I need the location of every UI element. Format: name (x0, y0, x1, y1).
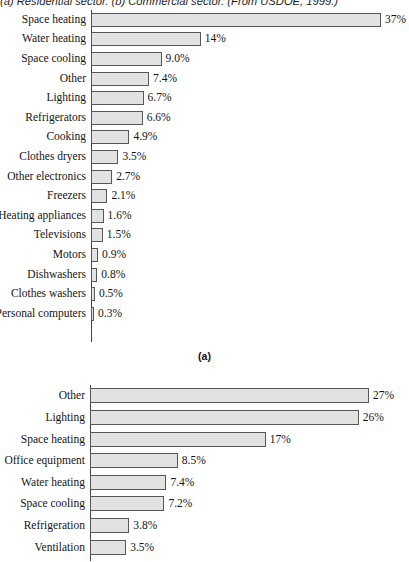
bar (90, 518, 129, 533)
bar (91, 130, 129, 144)
bar-category-label: Cooking (46, 130, 86, 142)
bar-value-label: 14% (205, 32, 226, 44)
bar (90, 475, 166, 490)
bar-value-label: 1.5% (107, 228, 131, 240)
bar-category-label: Space heating (21, 433, 85, 445)
bar-value-label: 7.4% (170, 476, 194, 488)
bar-value-label: 2.1% (111, 189, 135, 201)
bar-category-label: Space cooling (20, 497, 85, 509)
bar (91, 209, 104, 223)
bar (91, 307, 94, 321)
bar (91, 111, 143, 125)
bar-category-label: Office equipment (4, 454, 85, 466)
bar-value-label: 0.9% (102, 248, 126, 260)
chart-residential-sector: Space heating37%Water heating14%Space co… (0, 10, 409, 344)
bar (91, 13, 381, 27)
bar-category-label: Heating appliances (0, 209, 86, 221)
bar (91, 52, 162, 66)
bar-category-label: Refrigeration (24, 519, 85, 531)
bar-value-label: 3.5% (122, 150, 146, 162)
bar-category-label: Ventilation (35, 541, 85, 553)
bar-value-label: 6.6% (147, 111, 171, 123)
bar-value-label: 17% (270, 433, 291, 445)
bar (91, 268, 97, 282)
bar (90, 453, 178, 468)
chart-commercial-sector: Other27%Lighting26%Space heating17%Offic… (0, 385, 409, 562)
bar (91, 189, 107, 203)
bar (91, 91, 144, 105)
bar-value-label: 2.7% (116, 170, 140, 182)
figure-caption: (a) Residential sector. (b) Commercial s… (0, 0, 409, 8)
bar (90, 410, 359, 425)
bar-category-label: Dishwashers (27, 268, 86, 280)
bar (91, 170, 112, 184)
bar-category-label: Motors (53, 248, 86, 260)
bar-category-label: Other (59, 389, 85, 401)
bar-value-label: 9.0% (166, 52, 190, 64)
bar (91, 32, 201, 46)
bar-value-label: 26% (363, 411, 384, 423)
bar-category-label: Clothes dryers (19, 150, 86, 162)
bar-value-label: 8.5% (182, 454, 206, 466)
bar-value-label: 7.4% (153, 72, 177, 84)
bar-category-label: Space heating (22, 13, 86, 25)
bar-category-label: Other electronics (7, 170, 86, 182)
subcaption-a: (a) (0, 350, 409, 362)
bar-category-label: Televisions (34, 228, 86, 240)
bar-value-label: 6.7% (148, 91, 172, 103)
bar (91, 72, 149, 86)
bar-category-label: Space cooling (21, 52, 86, 64)
bar (90, 540, 126, 555)
bar-category-label: Freezers (47, 189, 86, 201)
bar (91, 228, 103, 242)
bar (90, 496, 164, 511)
bar-value-label: 1.6% (108, 209, 132, 221)
bar-value-label: 7.2% (168, 497, 192, 509)
bar-category-label: Water heating (22, 32, 86, 44)
bar-category-label: Refrigerators (25, 111, 86, 123)
bar-value-label: 3.8% (133, 519, 157, 531)
bar (91, 287, 95, 301)
bar-category-label: Lighting (45, 411, 85, 423)
bar-category-label: Other (60, 72, 86, 84)
bar (90, 388, 369, 403)
bar-category-label: Lighting (46, 91, 86, 103)
bar-category-label: Water heating (21, 476, 85, 488)
figure-caption-text: (a) Residential sector. (b) Commercial s… (0, 0, 227, 7)
bar-value-label: 3.5% (130, 541, 154, 553)
bar-category-label: Clothes washers (11, 287, 86, 299)
bar-value-label: 0.8% (101, 268, 125, 280)
bar-value-label: 27% (373, 389, 394, 401)
bar-category-label: Personal computers (0, 307, 86, 319)
bar-value-label: 0.3% (98, 307, 122, 319)
bar (91, 248, 98, 262)
bar-value-label: 37% (385, 13, 406, 25)
bar (91, 150, 118, 164)
bar-value-label: 0.5% (99, 287, 123, 299)
figure-caption-source: (From USDOE, 1999.) (227, 0, 338, 7)
bar (90, 432, 266, 447)
bar-value-label: 4.9% (133, 130, 157, 142)
